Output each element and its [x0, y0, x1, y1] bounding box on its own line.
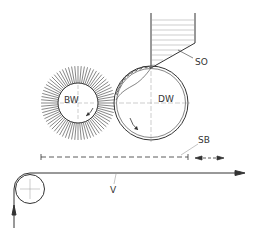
double-arrow-icon: [195, 156, 224, 160]
label-dw: DW: [158, 94, 174, 104]
web: [12, 171, 245, 229]
doctor-roller: [112, 64, 190, 142]
label-sb: SB: [198, 135, 210, 145]
label-v: V: [110, 185, 117, 195]
hopper: [151, 13, 195, 68]
shield-bar: [41, 144, 198, 160]
diagram-canvas: SO BW DW SB: [0, 0, 258, 238]
label-so: SO: [195, 57, 208, 67]
label-bw: BW: [64, 95, 79, 105]
